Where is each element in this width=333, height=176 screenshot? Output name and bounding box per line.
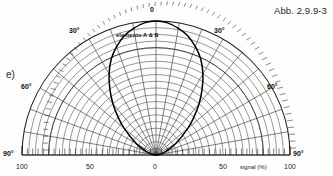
radial-tick-right-100: 100 [284, 163, 296, 170]
angle-label-right-30: 30° [214, 27, 225, 34]
radial-tick-left-100: 100 [16, 163, 28, 170]
radial-tick-left-50: 50 [86, 163, 94, 170]
angle-label-left-60: 60° [21, 83, 32, 90]
polar-figure: Abb. 2.9.9-3 e) 0 30° 30° 60° 60° 90° 90… [0, 0, 333, 176]
angle-label-left-30: 30° [69, 27, 80, 34]
angular-grid-spokes [22, 21, 290, 155]
polar-plot-canvas [0, 0, 333, 176]
radial-tick-center-0: 0 [153, 163, 157, 170]
figure-caption: Abb. 2.9.9-3 [274, 6, 327, 16]
angle-label-right-90: 90° [293, 150, 304, 157]
angle-label-right-60: 60° [267, 83, 278, 90]
angle-label-left-90: 90° [3, 150, 14, 157]
lobe-annotation-label: elements A & B [116, 33, 159, 39]
angle-label-0: 0 [150, 6, 154, 13]
radial-tick-right-50: 50 [219, 163, 227, 170]
radial-axis-title: signal (%) [240, 164, 267, 170]
panel-label: e) [6, 70, 15, 80]
